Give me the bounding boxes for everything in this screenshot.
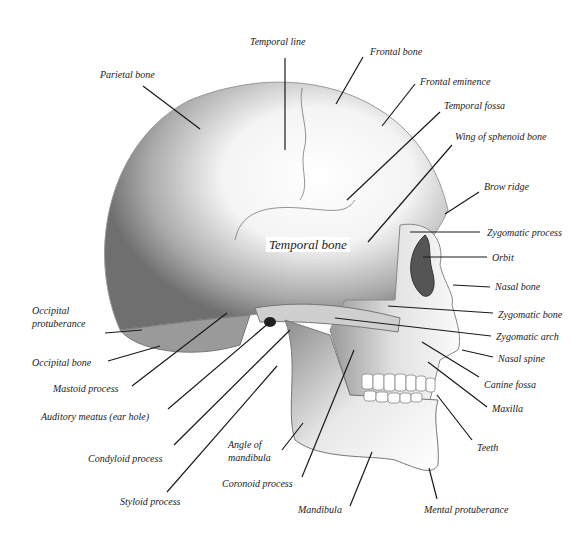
leader-brow-ridge: [445, 192, 479, 214]
skull-diagram: Temporal lineParietal boneFrontal boneFr…: [0, 0, 588, 543]
label-maxilla: Maxilla: [492, 402, 523, 415]
label-condyloid-process: Condyloid process: [88, 452, 162, 465]
label-occipital-bone: Occipital bone: [32, 356, 91, 369]
label-coronoid-process: Coronoid process: [222, 477, 293, 490]
label-temporal-bone: Temporal bone: [266, 237, 350, 252]
label-frontal-bone: Frontal bone: [370, 45, 422, 58]
leader-frontal-eminence: [382, 84, 415, 126]
label-mental-protuberance: Mental protuberance: [424, 503, 508, 516]
leader-styloid-process: [167, 366, 277, 492]
label-nasal-spine: Nasal spine: [498, 352, 545, 365]
label-frontal-eminence: Frontal eminence: [420, 75, 490, 88]
label-parietal-bone: Parietal bone: [100, 68, 155, 81]
leader-occipital-bone: [108, 346, 160, 361]
label-zygomatic-process: Zygomatic process: [487, 226, 562, 239]
label-teeth: Teeth: [477, 441, 498, 454]
label-orbit: Orbit: [492, 251, 514, 264]
label-occipital-protuberance: Occipital protuberance: [32, 304, 86, 330]
label-temporal-line: Temporal line: [250, 35, 305, 48]
leader-nasal-bone: [453, 285, 490, 287]
label-temporal-fossa: Temporal fossa: [444, 99, 505, 112]
label-auditory-meatus: Auditory meatus (ear hole): [41, 410, 149, 423]
label-nasal-bone: Nasal bone: [495, 280, 540, 293]
label-brow-ridge: Brow ridge: [484, 180, 529, 193]
label-angle-of-mandibula: Angle of mandibula: [228, 438, 271, 464]
label-styloid-process: Styloid process: [120, 495, 180, 508]
leader-mandibula: [350, 452, 372, 506]
leader-teeth: [437, 395, 472, 440]
leader-mental-protuberance: [429, 468, 437, 499]
label-mastoid-process: Mastoid process: [53, 382, 118, 395]
label-zygomatic-bone: Zygomatic bone: [498, 308, 562, 321]
label-zygomatic-arch: Zygomatic arch: [496, 330, 559, 343]
label-wing-of-sphenoid: Wing of sphenoid bone: [455, 130, 546, 143]
label-canine-fossa: Canine fossa: [484, 378, 536, 391]
label-mandibula: Mandibula: [298, 503, 342, 516]
leader-nasal-spine: [462, 350, 493, 357]
